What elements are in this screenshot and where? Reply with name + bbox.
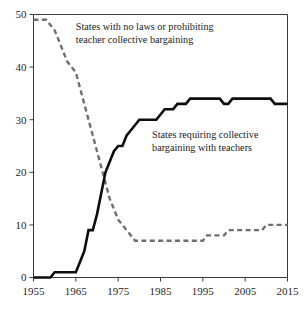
x-tick-label: 1985 — [150, 285, 173, 297]
annotation-no-laws-line2: teacher collective bargaining — [76, 34, 193, 45]
annotation-no-laws-line1: States with no laws or prohibiting — [76, 21, 214, 32]
y-tick-label: 40 — [16, 61, 28, 73]
chart-figure: 01020304050 1955196519751985199520052015… — [0, 0, 305, 312]
line-chart: 01020304050 1955196519751985199520052015… — [0, 0, 305, 312]
annotation-requiring-line1: States requiring collective — [152, 129, 259, 140]
x-tick-label: 1965 — [65, 285, 88, 297]
y-tick-label: 10 — [16, 219, 28, 231]
annotation-requiring-line2: bargaining with teachers — [152, 142, 252, 153]
y-tick-label: 50 — [16, 8, 28, 20]
y-tick-label: 0 — [21, 271, 27, 283]
x-tick-label: 1995 — [192, 285, 215, 297]
y-tick-label: 20 — [16, 166, 28, 178]
x-tick-label: 2015 — [277, 285, 300, 297]
y-tick-label: 30 — [16, 114, 28, 126]
chart-background — [0, 0, 305, 312]
x-tick-label: 1955 — [23, 285, 46, 297]
x-tick-label: 1975 — [107, 285, 130, 297]
x-tick-label: 2005 — [234, 285, 257, 297]
